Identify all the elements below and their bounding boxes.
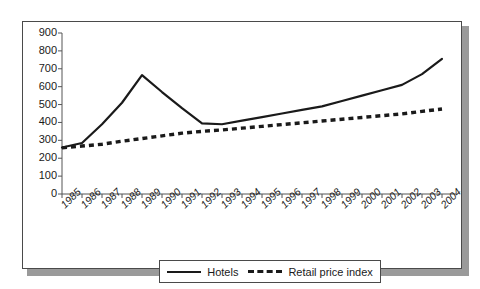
y-tick-label: 400 — [23, 116, 57, 127]
y-tick-label: 300 — [23, 134, 57, 145]
legend-label-hotels: Hotels — [207, 266, 238, 278]
y-tick-label: 100 — [23, 170, 57, 181]
y-tick-label: 600 — [23, 81, 57, 92]
y-tick-label: 900 — [23, 27, 57, 38]
legend-entry-retail-price-index: Retail price index — [248, 266, 372, 278]
legend-dashed-line-icon — [248, 270, 282, 273]
series-line-retail-price-index — [62, 109, 442, 148]
legend-solid-line-icon — [167, 271, 201, 273]
chart-frame: 0100200300400500600700800900 19851986198… — [22, 21, 462, 269]
chart-screenshot: 0100200300400500600700800900 19851986198… — [0, 0, 480, 289]
y-tick-label: 200 — [23, 152, 57, 163]
series-line-hotels — [62, 59, 442, 148]
legend-entry-hotels: Hotels — [167, 266, 238, 278]
y-tick-label: 700 — [23, 63, 57, 74]
y-tick-label: 0 — [23, 188, 57, 199]
y-tick-label: 500 — [23, 99, 57, 110]
y-tick-label: 800 — [23, 45, 57, 56]
line-chart-plot — [23, 22, 461, 268]
legend-label-retail-price-index: Retail price index — [288, 266, 372, 278]
chart-legend: Hotels Retail price index — [159, 260, 381, 283]
